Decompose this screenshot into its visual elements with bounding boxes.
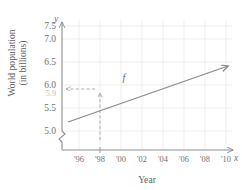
x-tick-label: '96 [74,155,84,164]
y-axis-variable-label: y [53,14,59,24]
chart-canvas: 5.0 5.5 6.0 6.5 7.0 7.5 5.9 '96 '98 '00 … [0,0,242,190]
x-tick-label: '98 [95,155,105,164]
x-tick-label: '08 [200,155,210,164]
highlight-guides [66,89,100,140]
y-tick-label: 7.0 [44,34,56,44]
x-tick-label: '06 [179,155,189,164]
x-axis-variable-label: x [233,153,239,163]
figure-world-population: 5.0 5.5 6.0 6.5 7.0 7.5 5.9 '96 '98 '00 … [0,0,242,190]
y-tick-label: 5.0 [44,126,56,136]
x-axis-title: Year [138,174,156,185]
y-tick-label: 5.5 [44,103,56,113]
y-axis-title-line-1: World population [6,13,17,113]
y-axis-title-line-2: (in billions) [17,13,28,113]
y-axis-title: World population (in billions) [6,13,28,113]
x-tick-label: '04 [158,155,169,164]
x-tick-label: '10 [221,155,231,164]
x-tick-label: '02 [137,155,147,164]
y-tick-label: 6.5 [44,57,56,67]
x-tick-label: '00 [116,155,126,164]
data-line-f [68,66,228,122]
function-label-f: f [123,72,128,83]
highlight-value-label: 5.9 [46,89,56,98]
